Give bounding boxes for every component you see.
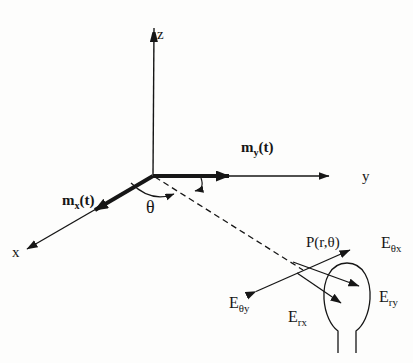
my-base: m [241,139,254,155]
e-theta-x-base: E [381,234,391,251]
e-ry-base: E [379,288,389,305]
y-to-radial-arc [195,178,202,191]
e-theta-arrow [256,250,350,292]
radial-dashed-line [155,177,303,270]
theta-angle-label: θ [146,198,155,218]
z-axis [153,28,154,175]
mx-arg: (t) [80,192,95,208]
e-ry-label: Ery [379,288,398,308]
z-axis-label: z [157,26,164,43]
e-theta-y-base: E [229,294,239,311]
antenna-lobe-outline [324,263,370,353]
dipole-field-diagram: z y x my(t) mx(t) θ P(r,θ) Eθx Eθy Erx E… [0,0,413,363]
e-rx-sub: rx [298,316,307,328]
e-theta-y-sub: θy [239,302,250,314]
observation-point-label: P(r,θ) [306,234,340,251]
mx-base: m [62,192,75,208]
e-ry-sub: ry [389,296,398,308]
mx-dipole-label: mx(t) [62,192,95,211]
e-theta-y-label: Eθy [229,294,249,314]
diagram-geometry [0,0,413,363]
e-theta-x-sub: θx [391,242,402,254]
e-rx-base: E [288,308,298,325]
x-axis-label: x [12,244,20,261]
my-arg: (t) [259,139,274,155]
e-theta-x-label: Eθx [381,234,401,254]
e-rx-label: Erx [288,308,307,328]
my-dipole-label: my(t) [241,139,274,158]
y-axis-label: y [362,168,370,185]
